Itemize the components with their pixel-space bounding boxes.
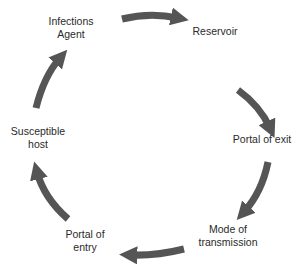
node-susceptible-host: Susceptible host bbox=[11, 125, 65, 151]
arrow-agent-to-reservoir-icon bbox=[122, 15, 178, 19]
node-label-line: Infections bbox=[49, 15, 94, 28]
arrow-host-to-agent-icon bbox=[36, 58, 60, 108]
node-label-line: host bbox=[11, 138, 65, 151]
node-label-line: Reservoir bbox=[193, 25, 238, 38]
node-portal-of-exit: Portal of exit bbox=[233, 133, 291, 146]
node-label-line: Agent bbox=[49, 28, 94, 41]
node-reservoir: Reservoir bbox=[193, 25, 238, 38]
node-label-line: Portal of exit bbox=[233, 133, 291, 146]
chain-of-infection-diagram: Infections Agent Reservoir Portal of exi… bbox=[0, 0, 299, 271]
arrow-transmission-to-entry-icon bbox=[130, 249, 184, 255]
node-label-line: Mode of bbox=[199, 223, 258, 236]
node-label-line: Portal of bbox=[65, 228, 104, 241]
node-label-line: transmission bbox=[199, 236, 258, 249]
arrow-exit-to-transmission-icon bbox=[244, 162, 268, 212]
arrow-reservoir-to-exit-icon bbox=[238, 90, 270, 128]
arrow-entry-to-host-icon bbox=[37, 172, 68, 219]
node-infectious-agent: Infections Agent bbox=[49, 15, 94, 41]
node-mode-of-transmission: Mode of transmission bbox=[199, 223, 258, 249]
node-portal-of-entry: Portal of entry bbox=[65, 228, 104, 254]
node-label-line: Susceptible bbox=[11, 125, 65, 138]
node-label-line: entry bbox=[65, 241, 104, 254]
